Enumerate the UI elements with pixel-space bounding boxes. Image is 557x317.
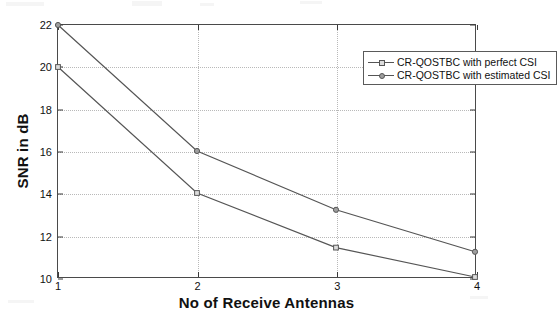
x-tick-mark — [477, 25, 478, 30]
data-point-square — [473, 275, 478, 280]
x-tick-label: 4 — [474, 281, 480, 292]
x-tick-label: 1 — [55, 281, 61, 292]
scan-artifact — [300, 1, 322, 4]
x-tick-label: 3 — [334, 281, 340, 292]
data-point-square — [56, 65, 61, 70]
legend-marker-circle-icon — [368, 69, 394, 81]
data-point-circle — [472, 249, 477, 254]
plot-area: 10121416182022 1234 CR-QOSTBC with perfe… — [57, 24, 476, 278]
y-axis-label: SNR in dB — [14, 113, 31, 188]
y-tick-label: 16 — [40, 147, 52, 158]
data-point-square — [334, 245, 339, 250]
data-point-square — [195, 191, 200, 196]
x-axis-label: No of Receive Antennas — [57, 294, 476, 311]
scan-artifact — [6, 2, 44, 6]
data-point-circle — [194, 148, 199, 153]
y-tick-label: 10 — [40, 274, 52, 285]
data-point-circle — [333, 207, 338, 212]
x-tick-label: 2 — [195, 281, 201, 292]
scan-artifact — [200, 3, 214, 6]
legend-item[interactable]: CR-QOSTBC with estimated CSI — [368, 68, 550, 81]
legend-item[interactable]: CR-QOSTBC with perfect CSI — [368, 55, 550, 68]
scan-artifact — [132, 1, 162, 6]
series-line — [58, 67, 475, 277]
y-tick-label: 14 — [40, 189, 52, 200]
y-tick-label: 12 — [40, 231, 52, 242]
legend-item-label: CR-QOSTBC with estimated CSI — [397, 69, 550, 81]
scan-artifact — [8, 300, 34, 303]
legend: CR-QOSTBC with perfect CSICR-QOSTBC with… — [363, 51, 557, 85]
legend-item-label: CR-QOSTBC with perfect CSI — [397, 56, 537, 68]
data-point-circle — [55, 22, 60, 27]
y-tick-label: 22 — [40, 20, 52, 31]
y-tick-label: 20 — [40, 62, 52, 73]
y-tick-label: 18 — [40, 104, 52, 115]
legend-marker-square-icon — [368, 56, 394, 68]
